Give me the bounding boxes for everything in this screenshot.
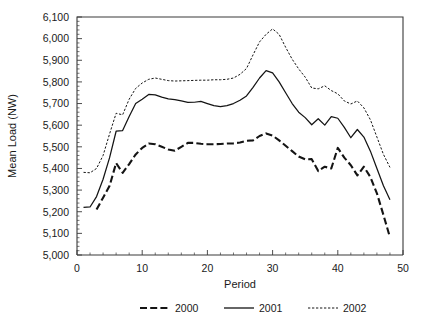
- y-tick-label: 5,900: [43, 54, 69, 66]
- x-tick-label: 50: [397, 262, 409, 274]
- y-tick-label: 5,200: [43, 206, 69, 218]
- y-axis-title: Mean Load (NW): [6, 94, 18, 178]
- y-tick-label: 5,500: [43, 141, 69, 153]
- data-series: [84, 29, 390, 237]
- chart-figure: 5,0005,1005,2005,3005,4005,5005,6005,700…: [0, 0, 427, 323]
- x-tick-label: 10: [136, 262, 148, 274]
- axis-ticks: [77, 17, 403, 255]
- y-tick-label: 5,800: [43, 76, 69, 88]
- plot-frame: [77, 17, 403, 255]
- x-tick-label: 40: [332, 262, 344, 274]
- legend-label-2002: 2002: [343, 302, 367, 314]
- y-tick-label: 6,000: [43, 32, 69, 44]
- y-tick-label: 5,700: [43, 97, 69, 109]
- y-tick-label: 5,000: [43, 249, 69, 261]
- y-tick-label: 6,100: [43, 11, 69, 23]
- y-tick-label: 5,100: [43, 227, 69, 239]
- x-axis-title: Period: [224, 278, 256, 290]
- legend-label-2000: 2000: [175, 302, 199, 314]
- line-chart: 5,0005,1005,2005,3005,4005,5005,6005,700…: [0, 0, 427, 323]
- x-tick-label: 20: [202, 262, 214, 274]
- series-line-2002: [84, 29, 390, 173]
- chart-legend: 200020012002: [140, 302, 367, 314]
- y-tick-label: 5,400: [43, 162, 69, 174]
- x-tick-label: 30: [267, 262, 279, 274]
- plot-border: [77, 17, 403, 255]
- legend-label-2001: 2001: [259, 302, 283, 314]
- y-tick-label: 5,300: [43, 184, 69, 196]
- y-tick-label: 5,600: [43, 119, 69, 131]
- x-tick-label: 0: [74, 262, 80, 274]
- series-line-2000: [97, 133, 390, 237]
- series-line-2001: [84, 71, 390, 208]
- axis-tick-labels: 5,0005,1005,2005,3005,4005,5005,6005,700…: [43, 11, 409, 274]
